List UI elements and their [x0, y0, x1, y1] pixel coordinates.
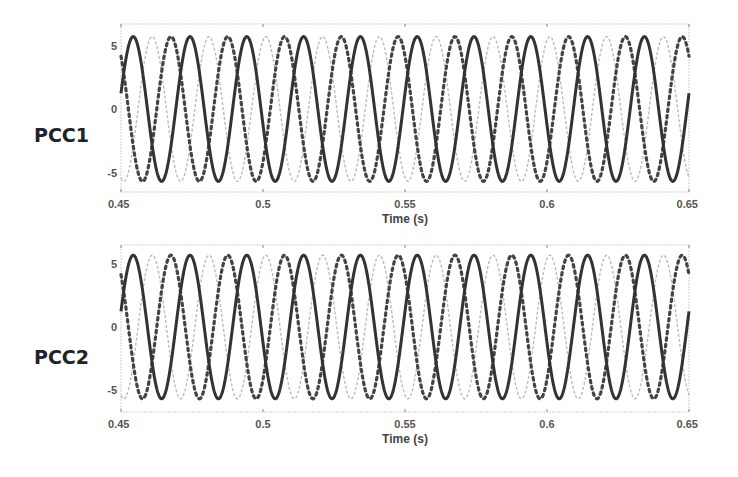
x-tick-label: 0.55 — [394, 418, 415, 430]
x-tick-label: 0.45 — [108, 198, 129, 210]
plot-panel-pcc1: 0.450.50.550.60.6550-5Time (s) — [107, 24, 698, 226]
y-tick-label: 0 — [111, 103, 117, 115]
x-axis-title: Time (s) — [382, 212, 428, 226]
y-tick-label: -5 — [107, 384, 117, 396]
y-tick-label: -5 — [107, 167, 117, 179]
plot-panel-pcc2: 0.450.50.550.60.6550-5Time (s) — [107, 245, 698, 446]
y-tick-label: 5 — [111, 40, 117, 52]
x-tick-label: 0.45 — [108, 418, 129, 430]
chart-canvas: 0.450.50.550.60.6550-5Time (s)0.450.50.5… — [0, 0, 738, 477]
x-tick-label: 0.65 — [677, 418, 698, 430]
y-tick-label: 0 — [111, 321, 117, 333]
x-tick-label: 0.55 — [394, 198, 415, 210]
x-tick-label: 0.65 — [677, 198, 698, 210]
x-tick-label: 0.6 — [539, 198, 554, 210]
x-tick-label: 0.5 — [255, 418, 270, 430]
x-axis-title: Time (s) — [382, 432, 428, 446]
series-line-phase-c — [121, 255, 689, 399]
series-line-phase-c — [121, 37, 689, 182]
y-tick-label: 5 — [111, 258, 117, 270]
x-tick-label: 0.6 — [539, 418, 554, 430]
x-tick-label: 0.5 — [255, 198, 270, 210]
